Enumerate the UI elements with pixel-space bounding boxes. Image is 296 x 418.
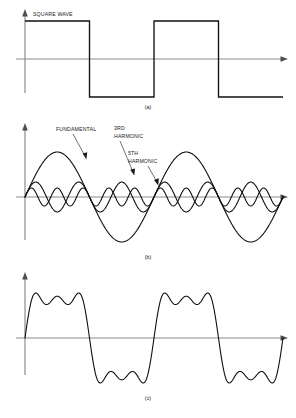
panel-a-vertical-axis-arrow (22, 9, 28, 17)
fundamental-leader-arrow (83, 152, 88, 159)
panel-a: SQUARE WAVE (a) (16, 9, 288, 110)
fifth-harmonic-curve (25, 188, 283, 206)
panel-b-caption: (b) (145, 254, 152, 260)
panel-c-vertical-axis-arrow (22, 272, 28, 280)
panel-a-caption: (a) (145, 104, 152, 110)
third-harmonic-leader-arrow (130, 168, 135, 175)
panel-b-vertical-axis-arrow (22, 123, 28, 131)
third-harmonic-label-line2: HARMONIC (114, 133, 144, 139)
third-harmonic-label-line1: 3RD (114, 125, 125, 131)
panel-c-caption: (c) (145, 395, 151, 401)
panel-c-horizontal-axis-arrow (281, 335, 289, 341)
fundamental-leader-line (73, 134, 85, 156)
square-wave-label: SQUARE WAVE (33, 11, 73, 17)
fifth-harmonic-leader-arrow (154, 178, 159, 185)
fifth-harmonic-label-line1: 5TH (128, 150, 138, 156)
panel-b: FUNDAMENTAL 3RD HARMONIC 5TH HARMONIC (b… (16, 123, 288, 260)
panel-a-horizontal-axis-arrow (281, 56, 289, 62)
fundamental-label: FUNDAMENTAL (56, 126, 96, 132)
third-harmonic-leader-line (120, 141, 133, 172)
harmonics-figure: SQUARE WAVE (a) FUNDAMENTAL 3RD HARMONIC… (0, 0, 296, 418)
panel-c: (c) (16, 272, 288, 401)
fifth-harmonic-label-line2: HARMONIC (128, 158, 158, 164)
